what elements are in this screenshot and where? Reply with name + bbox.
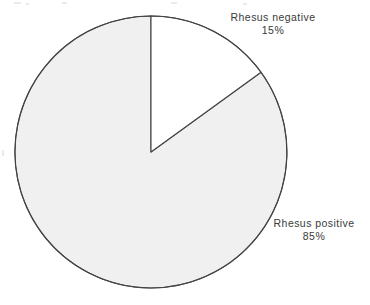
slice-label-name-rhesus-negative: Rhesus negative	[231, 11, 316, 23]
slice-label-percent-rhesus-negative: 15%	[221, 24, 325, 37]
slice-label-name-rhesus-positive: Rhesus positive	[274, 217, 355, 229]
slice-label-rhesus-positive: Rhesus positive 85%	[262, 217, 366, 243]
pie-chart-figure: Rhesus negative 15% Rhesus positive 85%	[0, 0, 370, 305]
slice-label-rhesus-negative: Rhesus negative 15%	[221, 11, 325, 37]
slice-label-percent-rhesus-positive: 85%	[262, 230, 366, 243]
pie-chart-svg	[0, 0, 370, 305]
